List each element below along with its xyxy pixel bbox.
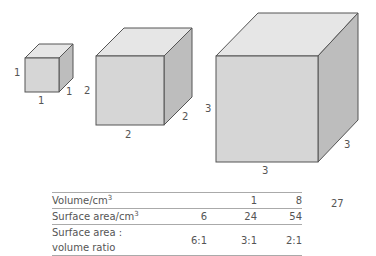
cube-1 [25,44,73,92]
cube-2-width-label: 2 [125,130,131,140]
ratio-table: Volume/cm3 1 8 Surface area/cm3 6 24 54 … [52,192,302,256]
cell: 6:1 [157,225,207,256]
cell: 1 [207,193,257,209]
table-row-surface-area: Surface area/cm3 6 24 54 [52,209,302,225]
table-row-ratio: Surface area : volume ratio 6:1 3:1 2:1 [52,225,302,256]
cube-3 [216,13,358,162]
cube-2-depth-label: 2 [182,112,188,122]
cube-3-height-label: 3 [205,104,211,114]
row-label: Volume/cm3 [52,193,157,209]
row-label: Surface area : volume ratio [52,225,157,256]
cell: 3:1 [207,225,257,256]
overflow-volume-value: 27 [331,198,344,209]
cubes-diagram [0,0,376,190]
cube-3-depth-label: 3 [344,140,350,150]
cube-1-depth-label: 1 [66,87,72,97]
row-label: Surface area/cm3 [52,209,157,225]
cube-3-width-label: 3 [262,166,268,176]
cell: 54 [257,209,302,225]
cell: 6 [157,209,207,225]
cell: 2:1 [257,225,302,256]
cube-2-height-label: 2 [84,86,90,96]
table-row-volume: Volume/cm3 1 8 [52,193,302,209]
cube-2 [96,28,192,125]
cell: 24 [207,209,257,225]
cube-1-width-label: 1 [38,96,44,106]
cell: 8 [257,193,302,209]
cell [157,193,207,209]
cube-1-height-label: 1 [14,68,20,78]
